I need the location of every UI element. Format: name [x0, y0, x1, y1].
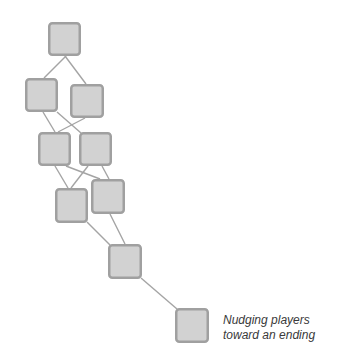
node-n3 [71, 85, 103, 117]
edge-n7-n8 [110, 214, 125, 244]
node-n2 [26, 79, 57, 111]
node-n8 [109, 245, 141, 278]
edge-n6-n8 [87, 222, 110, 245]
edge-n1-n3 [65, 56, 86, 84]
edge-n8-n9 [141, 278, 177, 309]
caption-line-1: Nudging players [223, 313, 315, 328]
edge-n5-n7 [102, 166, 109, 179]
edge-n1-n2 [44, 56, 66, 78]
node-n6 [56, 189, 87, 222]
edge-n2-n4 [43, 112, 55, 132]
diagram-caption: Nudging players toward an ending [223, 313, 315, 343]
narrative-diagram [0, 0, 342, 355]
node-n1 [49, 23, 80, 55]
edge-n4-n6 [55, 166, 68, 188]
node-n4 [39, 133, 70, 165]
node-n7 [92, 180, 124, 213]
caption-line-2: toward an ending [223, 328, 315, 343]
node-n5 [80, 133, 111, 165]
node-layer [26, 23, 208, 342]
node-n9 [176, 309, 208, 342]
edge-n3-n4 [58, 118, 85, 132]
